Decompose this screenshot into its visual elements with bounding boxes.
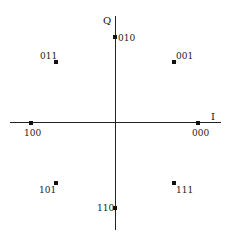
symbol-point-010 [113,35,117,39]
symbol-label-000: 000 [192,128,209,138]
symbol-label-101: 101 [39,185,56,195]
i-axis-label: I [211,111,215,122]
symbol-label-110: 110 [97,203,114,213]
symbol-label-100: 100 [24,128,41,138]
symbol-point-000 [196,121,200,125]
symbol-point-100 [29,121,33,125]
constellation-diagram: Q I 010 011 001 100 000 101 111 110 [0,0,232,244]
symbol-label-111: 111 [176,185,193,195]
symbol-label-010: 010 [118,33,135,43]
q-axis-label: Q [103,15,111,26]
symbol-label-011: 011 [40,51,57,61]
q-axis [115,16,116,230]
symbol-label-001: 001 [176,51,193,61]
